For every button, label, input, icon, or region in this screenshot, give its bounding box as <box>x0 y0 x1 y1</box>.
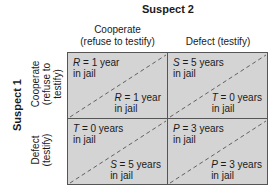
row-header-line: (refuse to <box>41 51 52 117</box>
payoff-suspect1: P = 3 yearsin jail <box>173 123 224 145</box>
payoff-value: = 5 years <box>117 159 161 170</box>
suspect2-title: Suspect 2 <box>108 3 228 15</box>
column-header-line: Cooperate <box>67 24 168 36</box>
suspect1-title: Suspect 1 <box>11 60 23 150</box>
payoff-value: = 1 year <box>122 92 161 103</box>
column-header-line: (refuse to testify) <box>67 36 168 48</box>
payoff-unit: in jail <box>173 134 196 145</box>
payoff-value: = 5 years <box>180 57 224 68</box>
payoff-suspect2: R = 1 yearin jail <box>115 92 161 114</box>
payoff-value: = 3 years <box>180 123 224 134</box>
payoff-suspect1: T = 0 yearsin jail <box>73 123 123 145</box>
row-header-line: (testify) <box>41 117 52 183</box>
payoff-unit: in jail <box>115 103 138 114</box>
cell-cooperate-cooperate: R = 1 yearin jail R = 1 yearin jail <box>68 53 168 119</box>
column-header-line: Defect (testify) <box>168 36 268 48</box>
payoff-unit: in jail <box>110 170 133 181</box>
payoff-suspect2: T = 0 yearsin jail <box>212 92 262 114</box>
cell-defect-defect: P = 3 yearsin jail P = 3 yearsin jail <box>168 119 268 185</box>
row-header-defect: Defect (testify) <box>30 117 52 183</box>
payoff-suspect1: R = 1 yearin jail <box>73 57 119 79</box>
row-header-line: Defect <box>30 117 41 183</box>
payoff-unit: in jail <box>73 68 96 79</box>
column-header-cooperate: Cooperate (refuse to testify) <box>67 24 168 48</box>
payoff-symbol: S <box>173 57 180 68</box>
payoff-suspect2: P = 3 yearsin jail <box>211 159 262 181</box>
payoff-unit: in jail <box>212 103 235 114</box>
payoff-symbol: P <box>173 123 180 134</box>
payoff-unit: in jail <box>73 134 96 145</box>
payoff-value: = 1 year <box>80 57 119 68</box>
payoff-symbol: S <box>110 159 117 170</box>
payoff-symbol: R <box>115 92 122 103</box>
payoff-value: = 0 years <box>218 92 262 103</box>
column-header-defect: Defect (testify) <box>168 36 268 48</box>
cell-defect-cooperate: T = 0 yearsin jail S = 5 yearsin jail <box>68 119 168 185</box>
payoff-value: = 3 years <box>218 159 262 170</box>
payoff-value: = 0 years <box>79 123 123 134</box>
row-header-line: testify) <box>52 51 63 117</box>
payoff-matrix: R = 1 yearin jail R = 1 yearin jail S = … <box>67 52 268 185</box>
payoff-unit: in jail <box>211 170 234 181</box>
cell-cooperate-defect: S = 5 yearsin jail T = 0 yearsin jail <box>168 53 268 119</box>
payoff-unit: in jail <box>173 68 196 79</box>
row-header-line: Cooperate <box>30 51 41 117</box>
payoff-symbol: P <box>211 159 218 170</box>
row-header-cooperate: Cooperate (refuse to testify) <box>30 51 63 117</box>
payoff-suspect2: S = 5 yearsin jail <box>110 159 161 181</box>
payoff-suspect1: S = 5 yearsin jail <box>173 57 224 79</box>
